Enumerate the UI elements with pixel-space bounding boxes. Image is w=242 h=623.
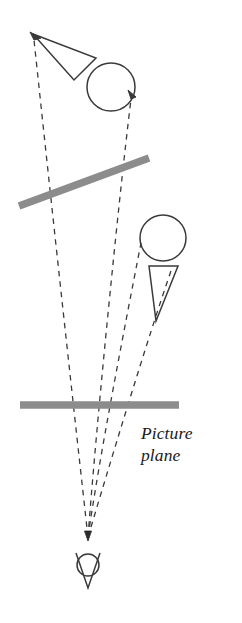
object-triangle	[33, 34, 96, 80]
convergence-arrowhead-icon	[85, 531, 92, 541]
projected-circle	[140, 215, 186, 261]
figure-canvas	[0, 0, 242, 623]
perspective-projection-figure: Picture plane	[0, 0, 242, 623]
object-circle	[87, 63, 135, 111]
tilted-object-plane-bar	[19, 158, 149, 206]
sight-line-to-object-triangle	[34, 40, 88, 537]
sight-line-to-projected-circle	[88, 243, 141, 537]
viewer-eye-icon	[76, 553, 100, 588]
